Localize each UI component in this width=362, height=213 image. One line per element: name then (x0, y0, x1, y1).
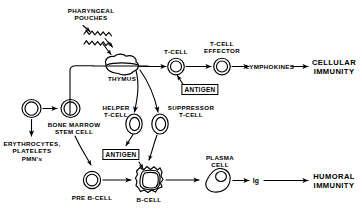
pre-b-cell-label: PRE B-CELL (72, 194, 113, 201)
helper-to-antigen (126, 135, 133, 146)
suppressor-to-bcell (149, 135, 157, 160)
ig-label: Ig (253, 177, 260, 185)
t-cell-effector-label: T-CELL EFFECTOR (204, 40, 240, 55)
antigen-t-box: ANTIGEN (181, 84, 218, 95)
lymphokines-label: LYMPHOKINES (246, 63, 295, 70)
thymus-to-suppressor (140, 70, 158, 112)
erythrocytes-label: ERYTHROCYTES, PLATELETS PMN's (4, 140, 61, 162)
thymus-shape (106, 54, 139, 75)
pharyngeal-pouches-label: PHARYNGEAL POUCHES (68, 7, 115, 22)
b-cell-shape (136, 167, 164, 193)
t-cell-shape (168, 58, 185, 75)
hematopoietic-cell-shape (22, 100, 41, 118)
t-cell-effector-shape (214, 58, 231, 75)
bone-marrow-stem-cell-label: BONE MARROW STEM CELL (48, 121, 101, 136)
helper-t-cell-label: HELPER T-CELL (102, 104, 129, 119)
stem-cell-to-thymus (70, 66, 93, 115)
suppressor-t-cell-shape (152, 114, 168, 134)
stem-to-preb (75, 136, 91, 165)
thymus-label: THYMUS (108, 75, 136, 82)
suppressor-t-cell-label: SUPPRESSOR T-CELL (168, 104, 214, 119)
cellular-immunity-label: CELLULAR IMMUNITY (312, 58, 356, 76)
pouch-to-thymus-arrow (103, 44, 111, 55)
humoral-immunity-label: HUMORAL IMMUNITY (313, 172, 355, 190)
plasma-cell-shape (206, 168, 230, 192)
antigen-b-box: ANTIGEN (102, 149, 139, 160)
immunology-flow-diagram: PHARYNGEAL POUCHES THYMUS T-CELL T-CELL … (0, 0, 362, 213)
b-cell-label: B-CELL (137, 196, 162, 203)
plasma-cell-label: PLASMA CELL (206, 154, 234, 169)
t-cell-label: T-CELL (164, 48, 188, 55)
pre-b-cell-shape (83, 171, 100, 188)
pharyngeal-pouches-zigzag (84, 31, 112, 46)
